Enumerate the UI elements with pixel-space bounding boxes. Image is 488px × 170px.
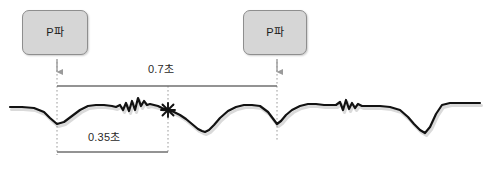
phase-label-p1[interactable]: P파 <box>22 10 88 55</box>
seismogram-figure: P파 P파 0.7초 0.35초 <box>0 0 488 170</box>
dimension-label-short: 0.35초 <box>88 132 120 143</box>
phase-label-p1-text: P파 <box>46 27 64 38</box>
phase-label-p2[interactable]: P파 <box>243 10 307 55</box>
s-wave-marker-icon <box>161 103 175 117</box>
phase-label-p2-text: P파 <box>266 27 284 38</box>
seismogram-trace <box>10 98 480 133</box>
dimension-label-long: 0.7초 <box>148 64 174 75</box>
